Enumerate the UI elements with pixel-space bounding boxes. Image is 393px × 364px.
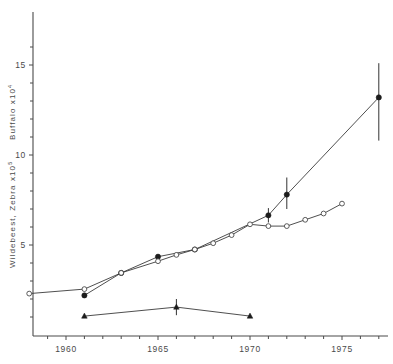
data-point-open-circle [284,224,289,229]
x-axis-tick-label: 1975 [331,344,353,354]
data-point-open-circle [27,291,32,296]
y-axis-title-wildebeest-zebra-exponent: 5 [7,161,13,165]
data-point-open-circle [211,241,216,246]
data-point-filled-circle [376,95,381,100]
data-point-filled-circle [266,213,271,218]
y-axis-title-buffalo-text: Buffalo x10 [8,88,17,140]
x-axis-tick-label: 1960 [55,344,77,354]
population-trend-chart: Wildebeest, Zebra x105 Buffalo x104 5101… [0,0,393,364]
data-point-filled-circle [284,192,289,197]
series-wildebeest [82,63,382,298]
series-buffalo [82,299,253,318]
axis-ticks [29,47,379,340]
y-axis-tick-label: 5 [21,240,26,250]
axis-tick-labels: 510151960196519701975 [15,60,353,354]
y-axis-tick-label: 15 [15,60,26,70]
chart-figure: Wildebeest, Zebra x105 Buffalo x104 5101… [0,0,393,364]
data-point-open-circle [340,201,345,206]
series-line-buffalo [84,307,250,316]
data-point-open-circle [229,233,234,238]
data-point-open-circle [82,287,87,292]
y-axis-title-buffalo-exponent: 4 [7,84,13,88]
x-axis-tick-label: 1970 [239,344,261,354]
y-axis-title-wildebeest-zebra: Wildebeest, Zebra x105 [7,161,17,268]
data-point-open-circle [119,271,124,276]
series-zebra [27,201,345,296]
data-point-open-circle [174,253,179,258]
x-axis-tick-label: 1965 [147,344,169,354]
data-point-open-circle [248,222,253,227]
data-point-open-circle [266,224,271,229]
series-line-zebra [29,204,342,294]
data-point-filled-triangle [174,304,180,309]
y-axis-title-group: Wildebeest, Zebra x105 Buffalo x104 [7,84,17,268]
data-point-open-circle [321,211,326,216]
y-axis-tick-label: 10 [15,150,26,160]
data-point-open-circle [192,247,197,252]
data-series [27,63,382,318]
y-axis-title-wildebeest-zebra-text: Wildebeest, Zebra x10 [8,165,17,268]
data-point-open-circle [156,259,161,264]
data-point-open-circle [303,217,308,222]
y-axis-title-buffalo: Buffalo x104 [7,84,17,140]
data-point-filled-circle [82,293,87,298]
series-line-wildebeest [84,97,378,295]
